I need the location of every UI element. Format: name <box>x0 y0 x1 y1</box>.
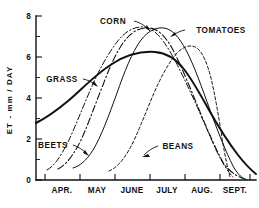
evapotranspiration-chart: 0 2 4 6 8 ET - mm / DAY APR. MAY JUNE JU… <box>0 0 259 208</box>
series-curve-tomatoes <box>73 28 247 180</box>
series-label-tomatoes: TOMATOES <box>196 26 246 35</box>
y-tick-label-2: 2 <box>26 135 31 144</box>
series-label-grass: GRASS <box>46 75 78 84</box>
x-tick-labels: APR. MAY JUNE JULY AUG. SEPT. <box>52 186 248 195</box>
x-tick-label-apr: APR. <box>52 186 73 195</box>
x-tick-marks <box>45 174 250 180</box>
beans-leader-line <box>144 146 158 155</box>
series-curve-corn <box>58 28 245 179</box>
y-tick-label-0: 0 <box>26 176 31 185</box>
x-tick-label-june: JUNE <box>120 186 143 195</box>
y-axis-title: ET - mm / DAY <box>5 66 14 135</box>
annotation-leaders <box>73 21 185 157</box>
series-label-beets: BEETS <box>38 141 68 150</box>
x-tick-label-aug: AUG. <box>191 186 213 195</box>
y-tick-marks <box>36 16 42 180</box>
x-tick-label-may: MAY <box>88 186 107 195</box>
y-tick-labels: 0 2 4 6 8 <box>26 12 31 185</box>
y-tick-label-8: 8 <box>26 12 31 21</box>
series-label-corn: CORN <box>100 17 126 26</box>
y-tick-label-4: 4 <box>26 94 31 103</box>
y-tick-label-6: 6 <box>26 53 31 62</box>
x-tick-label-july: JULY <box>156 186 178 195</box>
beans-arrowhead <box>142 154 150 157</box>
chart-canvas: 0 2 4 6 8 ET - mm / DAY APR. MAY JUNE JU… <box>0 0 259 208</box>
x-tick-label-sept: SEPT. <box>223 186 247 195</box>
grass-arrowhead <box>92 81 98 87</box>
series-label-beans: BEANS <box>162 142 193 151</box>
